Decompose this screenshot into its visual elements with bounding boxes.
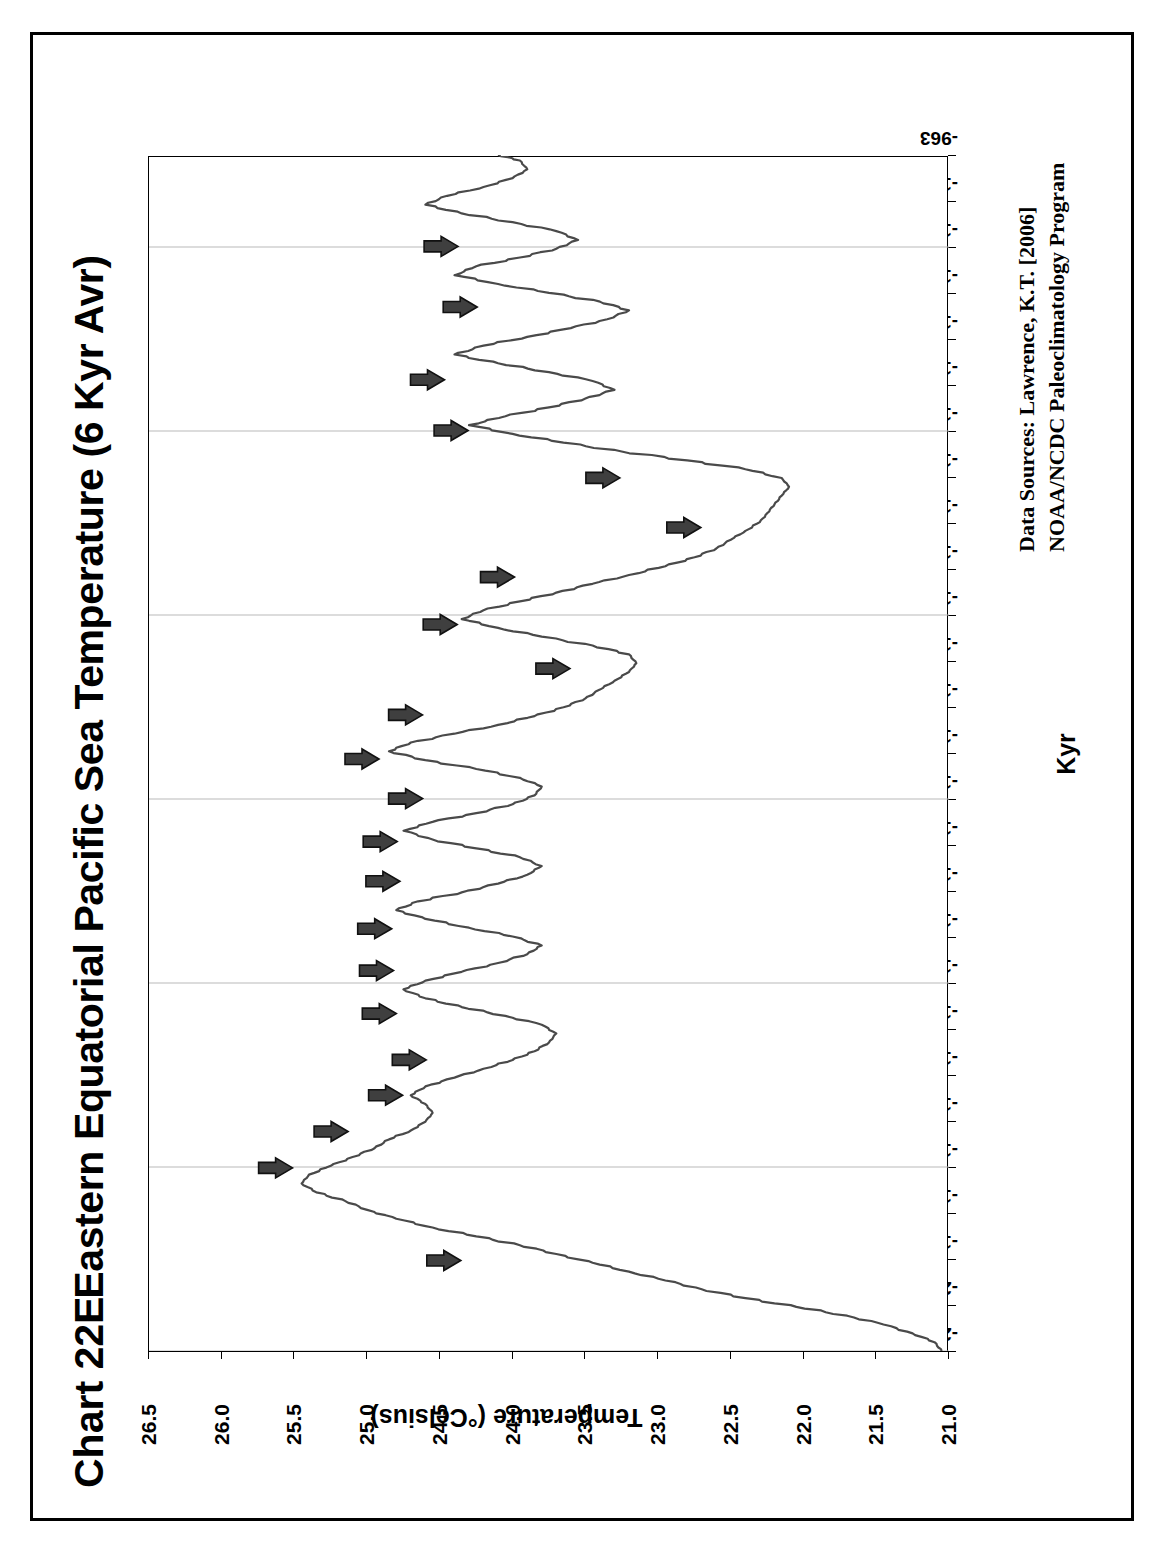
x-tick-mark	[948, 1075, 956, 1076]
x-tick-mark	[948, 707, 956, 708]
y-tick-mark	[730, 1352, 731, 1359]
y-tick-label: 23.5	[573, 1404, 597, 1494]
peak-arrow-marker	[586, 467, 620, 487]
y-tick-label: 24.5	[428, 1404, 452, 1494]
peak-arrow-marker	[369, 1085, 403, 1105]
arrow-annotations	[259, 236, 701, 1270]
x-tick-mark	[948, 1213, 956, 1214]
x-tick-mark	[948, 569, 956, 570]
plot-svg	[149, 155, 949, 1351]
x-tick-mark	[948, 1121, 956, 1122]
y-tick-label: 26.5	[137, 1404, 161, 1494]
y-tick-mark	[803, 1352, 804, 1359]
plot-area	[148, 156, 948, 1352]
y-tick-label: 25.0	[355, 1404, 379, 1494]
peak-arrow-marker	[536, 658, 570, 678]
x-tick-mark	[948, 615, 956, 616]
x-tick-mark	[948, 247, 956, 248]
y-tick-label: 22.5	[719, 1404, 743, 1494]
y-tick-label: 24.0	[501, 1404, 525, 1494]
y-tick-mark	[657, 1352, 658, 1359]
peak-arrow-marker	[389, 704, 423, 724]
peak-arrow-marker	[259, 1157, 293, 1177]
x-tick-mark	[948, 1305, 956, 1306]
x-tick-mark	[948, 339, 956, 340]
gridlines	[149, 247, 949, 1351]
peak-arrow-marker	[345, 749, 379, 769]
y-tick-label: 22.0	[792, 1404, 816, 1494]
y-tick-label: 23.0	[646, 1404, 670, 1494]
x-tick-mark	[948, 431, 956, 432]
peak-arrow-marker	[360, 960, 394, 980]
peak-arrow-marker	[389, 788, 423, 808]
x-tick-mark	[948, 1029, 956, 1030]
y-tick-mark	[366, 1352, 367, 1359]
x-tick-label: -963	[920, 127, 958, 149]
peak-arrow-marker	[358, 918, 392, 938]
x-tick-mark	[948, 983, 956, 984]
data-source-line-1: Data Sources: Lawrence, K.T. [2006]	[1014, 206, 1040, 551]
x-tick-mark	[948, 155, 956, 156]
chart-page: Chart 22E Eastern Equatorial Pacific Sea…	[0, 0, 1166, 1553]
y-tick-mark	[584, 1352, 585, 1359]
x-tick-mark	[948, 293, 956, 294]
x-tick-mark	[948, 891, 956, 892]
y-tick-mark	[948, 1352, 949, 1359]
x-tick-mark	[948, 1259, 956, 1260]
y-tick-mark	[148, 1352, 149, 1359]
data-source-line-2: NOAA/NCDC Paleoclimatology Program	[1044, 162, 1070, 551]
x-tick-mark	[948, 937, 956, 938]
x-tick-mark	[948, 477, 956, 478]
y-tick-label: 21.5	[864, 1404, 888, 1494]
x-tick-mark	[948, 753, 956, 754]
y-tick-mark	[221, 1352, 222, 1359]
y-tick-label: 25.5	[282, 1404, 306, 1494]
peak-arrow-marker	[392, 1049, 426, 1069]
y-tick-label: 26.0	[210, 1404, 234, 1494]
peak-arrow-marker	[667, 517, 701, 537]
temperature-series-line	[302, 155, 942, 1351]
peak-arrow-marker	[363, 831, 397, 851]
peak-arrow-marker	[443, 297, 477, 317]
rotated-chart-canvas: Chart 22E Eastern Equatorial Pacific Sea…	[62, 52, 1102, 1502]
y-tick-label: 21.0	[937, 1404, 961, 1494]
peak-arrow-marker	[481, 567, 515, 587]
x-tick-mark	[948, 523, 956, 524]
chart-frame: Chart 22E Eastern Equatorial Pacific Sea…	[30, 32, 1134, 1521]
peak-arrow-marker	[411, 369, 445, 389]
x-tick-mark	[948, 799, 956, 800]
x-tick-mark	[948, 845, 956, 846]
peak-arrow-marker	[362, 1003, 396, 1023]
peak-arrow-marker	[427, 1250, 461, 1270]
x-tick-mark	[948, 201, 956, 202]
peak-arrow-marker	[434, 420, 468, 440]
peak-arrow-marker	[423, 614, 457, 634]
x-tick-mark	[948, 661, 956, 662]
y-tick-mark	[439, 1352, 440, 1359]
peak-arrow-marker	[366, 871, 400, 891]
x-tick-mark	[948, 1167, 956, 1168]
peak-arrow-marker	[314, 1121, 348, 1141]
x-tick-mark	[948, 385, 956, 386]
x-tick-mark	[948, 1351, 956, 1352]
y-tick-mark	[293, 1352, 294, 1359]
chart-title: Eastern Equatorial Pacific Sea Temperatu…	[66, 52, 113, 1502]
peak-arrow-marker	[424, 236, 458, 256]
y-tick-mark	[875, 1352, 876, 1359]
y-tick-mark	[512, 1352, 513, 1359]
